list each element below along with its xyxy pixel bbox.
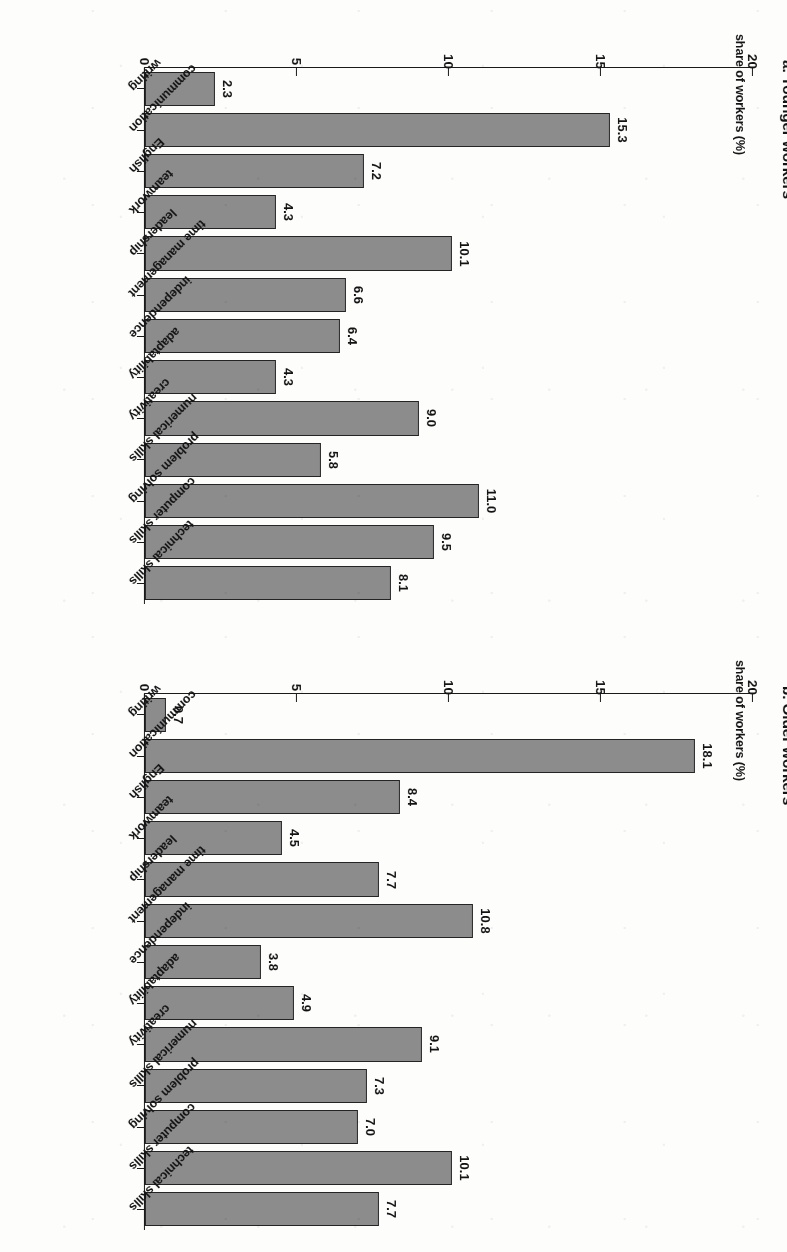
bar-row: 10.1computer skills [145, 1148, 753, 1189]
bar-row: 7.0problem solving [145, 1106, 753, 1147]
bar-value-label: 7.2 [369, 162, 384, 180]
panel-younger-workers: a. Younger workers share of workers (%) … [0, 0, 787, 626]
bar-value-label: 3.8 [266, 953, 281, 971]
bar-row: 4.5teamwork [145, 818, 753, 859]
value-axis-tick-label: 15 [594, 54, 609, 69]
panel-younger-plot-area: 2.3writing15.3communication7.2English4.3… [145, 68, 753, 604]
value-axis-tick-label: 15 [594, 680, 609, 695]
bar-row: 10.1leadership [145, 233, 753, 274]
bar-row: 7.3numerical skills [145, 1065, 753, 1106]
bar [145, 780, 400, 814]
bar-row: 10.8time management [145, 900, 753, 941]
bar-value-label: 6.6 [351, 286, 366, 304]
bar-row: 15.3communication [145, 109, 753, 150]
bar-value-label: 9.5 [439, 533, 454, 551]
bar-row: 9.0creativity [145, 398, 753, 439]
value-axis-tick-label: 10 [442, 54, 457, 69]
bar-value-label: 6.4 [345, 327, 360, 345]
bar-value-label: 10.1 [458, 241, 473, 266]
bar-value-label: 4.5 [287, 829, 302, 847]
bar-value-label: 10.8 [479, 908, 494, 933]
bar-value-label: 9.0 [424, 409, 439, 427]
value-axis-tick-label: 5 [290, 58, 305, 66]
bar-value-label: 7.0 [363, 1118, 378, 1136]
bar-row: 8.4English [145, 776, 753, 817]
bar-row: 3.8independence [145, 941, 753, 982]
panel-younger-title: a. Younger workers [779, 60, 787, 199]
bar-value-label: 4.3 [281, 368, 296, 386]
value-axis-tick-label: 20 [746, 54, 761, 69]
bar-row: 9.5computer skills [145, 522, 753, 563]
bar [145, 154, 364, 188]
bar-value-label: 11.0 [485, 489, 500, 514]
bar-row: 9.1creativity [145, 1024, 753, 1065]
panel-younger-bars: 2.3writing15.3communication7.2English4.3… [145, 68, 753, 604]
panel-older-plot-area: 0.7writing18.1communication8.4English4.5… [145, 694, 753, 1230]
bar-value-label: 9.1 [427, 1035, 442, 1053]
panel-older-workers: b. Older workers share of workers (%) 0.… [0, 626, 787, 1252]
bar-value-label: 7.3 [372, 1077, 387, 1095]
bar-value-label: 10.1 [458, 1156, 473, 1181]
panel-older-title: b. Older workers [779, 686, 787, 805]
bar [145, 113, 610, 147]
value-axis-tick [144, 67, 145, 76]
value-axis-tick-label: 20 [746, 680, 761, 695]
bar-value-label: 8.1 [397, 574, 412, 592]
bar-value-label: 15.3 [616, 117, 631, 142]
bar-row: 7.7technical skills [145, 1189, 753, 1230]
bar-value-label: 7.7 [385, 1200, 400, 1218]
bar-row: 18.1communication [145, 735, 753, 776]
bar-value-label: 2.3 [220, 80, 235, 98]
bar-row: 6.4independence [145, 315, 753, 356]
bar-value-label: 4.9 [299, 994, 314, 1012]
rotated-scanned-figure: b. Older workers share of workers (%) 0.… [0, 0, 787, 1252]
value-axis-tick-label: 10 [442, 680, 457, 695]
bar-row: 11.0problem solving [145, 480, 753, 521]
bar-row: 7.7leadership [145, 859, 753, 900]
bar-row: 8.1technical skills [145, 563, 753, 604]
bar-value-label: 4.3 [281, 203, 296, 221]
bar-row: 4.3teamwork [145, 192, 753, 233]
bar-value-label: 8.4 [406, 788, 421, 806]
bar [145, 566, 391, 600]
bar-row: 0.7writing [145, 694, 753, 735]
bar-row: 7.2English [145, 150, 753, 191]
bar-row: 4.3adaptability [145, 357, 753, 398]
value-axis-tick-label: 0 [138, 684, 153, 692]
bar-row: 6.6time management [145, 274, 753, 315]
bar-value-label: 7.7 [385, 871, 400, 889]
panel-older-bars: 0.7writing18.1communication8.4English4.5… [145, 694, 753, 1230]
value-axis-tick [296, 693, 297, 702]
bar-row: 5.8numerical skills [145, 439, 753, 480]
value-axis-tick-label: 0 [138, 58, 153, 66]
bar-value-label: 18.1 [701, 743, 716, 768]
value-axis-tick [296, 67, 297, 76]
value-axis-tick-label: 5 [290, 684, 305, 692]
bar [145, 1192, 379, 1226]
value-axis-tick [144, 693, 145, 702]
bar [145, 739, 695, 773]
bar-value-label: 5.8 [327, 451, 342, 469]
bar [145, 484, 479, 518]
bar-row: 4.9adaptability [145, 983, 753, 1024]
bar-row: 2.3writing [145, 68, 753, 109]
